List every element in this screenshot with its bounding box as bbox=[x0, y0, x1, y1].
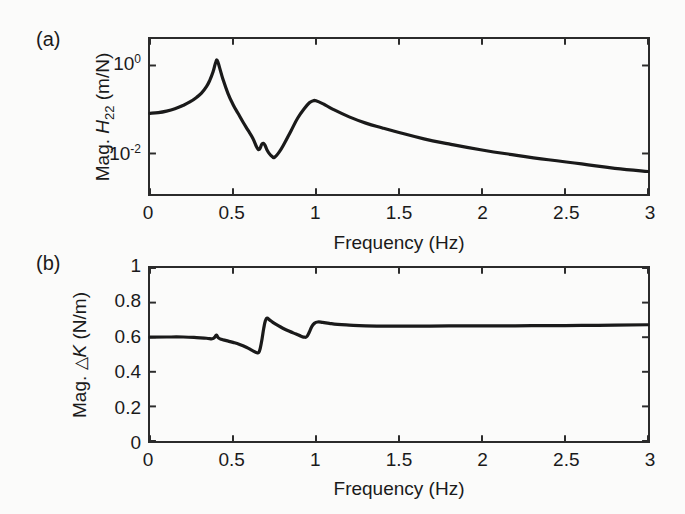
plot-a-yaxis-subscript: 22 bbox=[102, 106, 117, 120]
figure-container: (a) 10010-2 00.511.522.53 Mag. H22 (m/N)… bbox=[0, 0, 685, 514]
plot-b-xtick-label: 1.5 bbox=[386, 449, 412, 471]
plot-a-data-line bbox=[150, 60, 648, 171]
plot-a-xtick-label: 0.5 bbox=[218, 202, 244, 224]
plot-b-yaxis-units: (N/m) bbox=[69, 292, 90, 345]
plot-a-xtick-label: 2.5 bbox=[553, 202, 579, 224]
plot-b-ytick-label: 1 bbox=[130, 255, 141, 277]
plot-a-xtick-label: 2 bbox=[477, 202, 488, 224]
plot-a-yaxis-prefix: Mag. bbox=[92, 134, 113, 182]
plot-b-ytick-label: 0 bbox=[130, 432, 141, 454]
plot-b-curve-area bbox=[150, 268, 648, 441]
plot-a-curve-area bbox=[150, 39, 648, 194]
plot-b-xtick-label: 1 bbox=[310, 449, 321, 471]
triangle-icon: △ bbox=[71, 357, 90, 370]
plot-b-data-line bbox=[150, 318, 648, 353]
plot-a-yaxis-units: (m/N) bbox=[92, 53, 113, 106]
plot-b-yaxis-prefix: Mag. bbox=[69, 370, 90, 418]
panel-a-letter: (a) bbox=[36, 28, 60, 51]
panel-b-letter: (b) bbox=[36, 252, 60, 275]
plot-b-xaxis-title: Frequency (Hz) bbox=[334, 478, 465, 500]
plot-a-tick-marks bbox=[150, 39, 648, 194]
plot-b-xtick-label: 0 bbox=[143, 449, 154, 471]
plot-b-xtick-label: 0.5 bbox=[218, 449, 244, 471]
plot-b-yaxis-symbol: K bbox=[69, 345, 90, 358]
plot-a-ytick-label: 100 bbox=[113, 53, 141, 75]
plot-a-xaxis-title: Frequency (Hz) bbox=[334, 232, 465, 254]
plot-b-frame bbox=[148, 266, 650, 443]
plot-a-frame bbox=[148, 37, 650, 196]
plot-b-ytick-label: 0.8 bbox=[115, 290, 141, 312]
plot-b-tick-marks bbox=[150, 268, 648, 441]
plot-b-xtick-label: 2 bbox=[477, 449, 488, 471]
plot-a-xtick-label: 1.5 bbox=[386, 202, 412, 224]
plot-b-ytick-label: 0.6 bbox=[115, 326, 141, 348]
plot-a-xtick-label: 3 bbox=[645, 202, 656, 224]
plot-b-ytick-label: 0.2 bbox=[115, 397, 141, 419]
plot-a-xtick-label: 0 bbox=[143, 202, 154, 224]
plot-b-ytick-label: 0.4 bbox=[115, 361, 141, 383]
plot-a-xtick-label: 1 bbox=[310, 202, 321, 224]
plot-b-xtick-label: 3 bbox=[645, 449, 656, 471]
plot-b-xtick-label: 2.5 bbox=[553, 449, 579, 471]
plot-a-yaxis-symbol: H bbox=[92, 120, 113, 134]
